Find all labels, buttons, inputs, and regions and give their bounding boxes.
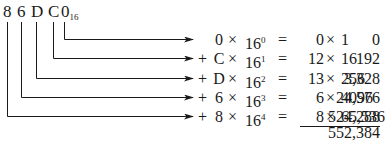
equals-sign: = (278, 50, 287, 68)
plus-sign: + (198, 70, 207, 88)
arrow-digit-c (54, 22, 194, 59)
term-digit: 8 (212, 108, 226, 126)
times-sign: × (228, 50, 237, 68)
term-digit: D (212, 70, 226, 88)
equals-sign: = (278, 89, 287, 107)
term-result: 0 (300, 31, 380, 49)
arrow-digit-6 (22, 22, 194, 98)
arrow-digit-d (37, 22, 194, 79)
arrow-digit-8 (8, 22, 194, 117)
power-term: 164 (245, 108, 266, 130)
term-digit: 6 (212, 89, 226, 107)
power-term: 161 (245, 50, 266, 72)
equals-sign: = (278, 70, 287, 88)
sum-total: 552,384 (328, 124, 380, 142)
equals-sign: = (278, 108, 287, 126)
term-result: 3,328 (300, 70, 380, 88)
term-digit: C (212, 50, 226, 68)
term-result: 192 (300, 50, 380, 68)
plus-sign: + (198, 108, 207, 126)
times-sign: × (228, 108, 237, 126)
times-sign: × (228, 89, 237, 107)
plus-sign: + (198, 89, 207, 107)
times-sign: × (228, 31, 237, 49)
term-digit: 0 (212, 31, 226, 49)
plus-sign: + (198, 50, 207, 68)
times-sign: × (228, 70, 237, 88)
equals-sign: = (278, 31, 287, 49)
term-result: 24,576 (300, 89, 380, 107)
arrow-digit-0 (65, 22, 194, 40)
